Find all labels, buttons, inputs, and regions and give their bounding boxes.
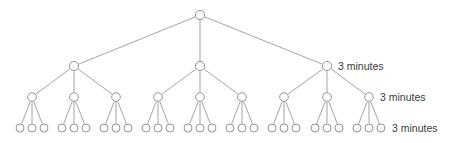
nodes-group (16, 10, 385, 132)
tree-node-leaf[interactable] (196, 124, 204, 132)
tree-edge (359, 102, 368, 124)
tree-node-leaf[interactable] (311, 124, 319, 132)
tree-node-level3[interactable] (28, 93, 37, 102)
tree-node-leaf[interactable] (208, 124, 216, 132)
tree-edge (371, 102, 380, 124)
tree-edge (286, 102, 295, 124)
tier-label-level4: 3 minutes (392, 123, 438, 134)
tree-node-leaf[interactable] (377, 124, 385, 132)
tree-node-leaf[interactable] (124, 124, 132, 132)
tree-node-leaf[interactable] (166, 124, 174, 132)
tree-node-leaf[interactable] (112, 124, 120, 132)
tier-label-level3: 3 minutes (380, 92, 426, 103)
tree-edge (118, 102, 127, 124)
tree-edge (317, 102, 326, 124)
tree-node-level2[interactable] (69, 61, 78, 70)
tree-node-leaf[interactable] (58, 124, 66, 132)
tree-diagram: 3 minutes 3 minutes 3 minutes (0, 0, 463, 143)
tree-edge (34, 102, 43, 124)
tree-node-leaf[interactable] (100, 124, 108, 132)
tree-node-level3[interactable] (196, 93, 205, 102)
tree-node-level3[interactable] (112, 93, 121, 102)
tree-node-level3[interactable] (154, 93, 163, 102)
tree-node-leaf[interactable] (335, 124, 343, 132)
tree-edge (244, 102, 253, 124)
tree-node-level3[interactable] (280, 93, 289, 102)
tree-edge (204, 69, 238, 94)
tree-edge (205, 17, 322, 64)
tree-node-leaf[interactable] (280, 124, 288, 132)
tree-edge (162, 69, 196, 94)
tree-node-leaf[interactable] (184, 124, 192, 132)
tree-edge (274, 102, 283, 124)
tree-edge (106, 102, 115, 124)
tree-node-leaf[interactable] (40, 124, 48, 132)
tree-edge (160, 102, 169, 124)
tree-node-leaf[interactable] (28, 124, 36, 132)
tree-node-leaf[interactable] (250, 124, 258, 132)
tree-node-leaf[interactable] (268, 124, 276, 132)
tree-node-leaf[interactable] (292, 124, 300, 132)
tree-edge (331, 69, 365, 94)
tree-node-level3[interactable] (365, 93, 374, 102)
tree-node-level2[interactable] (195, 61, 204, 70)
tree-edge (36, 69, 70, 94)
tree-edge (76, 102, 85, 124)
tree-node-level3[interactable] (70, 93, 79, 102)
tree-edge (288, 69, 323, 94)
tree-edge (79, 17, 195, 64)
tree-node-leaf[interactable] (142, 124, 150, 132)
tree-node-leaf[interactable] (70, 124, 78, 132)
tree-node-leaf[interactable] (323, 124, 331, 132)
tree-node-leaf[interactable] (353, 124, 361, 132)
tree-edge (64, 102, 73, 124)
tree-node-leaf[interactable] (365, 124, 373, 132)
tree-edge (78, 69, 112, 94)
tier-label-level2: 3 minutes (338, 61, 384, 72)
tree-node-level3[interactable] (238, 93, 247, 102)
tree-edge (232, 102, 241, 124)
tree-node-leaf[interactable] (226, 124, 234, 132)
tree-node-level2[interactable] (322, 61, 331, 70)
tree-node-leaf[interactable] (238, 124, 246, 132)
tree-node-leaf[interactable] (154, 124, 162, 132)
tree-edge (190, 102, 199, 124)
tree-edge (22, 102, 31, 124)
tree-edge (202, 102, 211, 124)
tree-node-leaf[interactable] (82, 124, 90, 132)
tree-node-level3[interactable] (323, 93, 332, 102)
tree-edge (148, 102, 157, 124)
tree-node-root[interactable] (195, 10, 204, 19)
tree-edge (329, 102, 338, 124)
tree-node-leaf[interactable] (16, 124, 24, 132)
